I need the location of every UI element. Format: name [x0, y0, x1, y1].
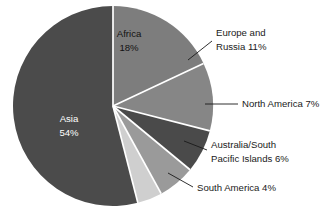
slice-label-africa-value: 18%	[119, 42, 139, 53]
slice-label-australia-south-pacific-islands-line2: Pacific Islands 6%	[211, 153, 289, 164]
slice-label-asia-name: Asia	[60, 113, 79, 124]
slice-label-europe-and-russia-line1: Europe and	[216, 27, 266, 38]
outside-labels: Europe and Russia 11% North America 7% A…	[197, 27, 320, 193]
slice-label-africa-name: Africa	[117, 28, 142, 39]
slice-label-north-america: North America 7%	[242, 98, 320, 109]
slice-label-south-america: South America 4%	[197, 182, 276, 193]
slice-label-australia-south-pacific-islands-line1: Australia/South	[211, 139, 276, 150]
pie-chart-canvas: Africa 18% Asia 54% Europe and Russia 11…	[0, 0, 336, 208]
slice-label-asia-value: 54%	[59, 127, 79, 138]
slice-label-europe-and-russia-line2: Russia 11%	[216, 41, 267, 52]
pie-chart: Africa 18% Asia 54% Europe and Russia 11…	[0, 0, 336, 208]
